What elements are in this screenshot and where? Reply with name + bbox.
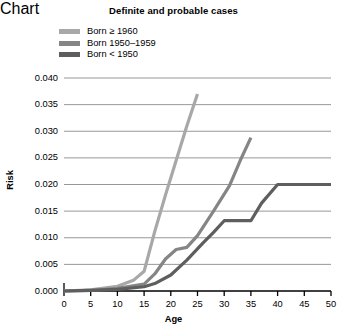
plot-area xyxy=(0,0,347,336)
series-line xyxy=(64,138,251,291)
chart-figure: Definite and probable cases Born ≥ 1960 … xyxy=(0,0,347,336)
series-line xyxy=(64,94,198,291)
